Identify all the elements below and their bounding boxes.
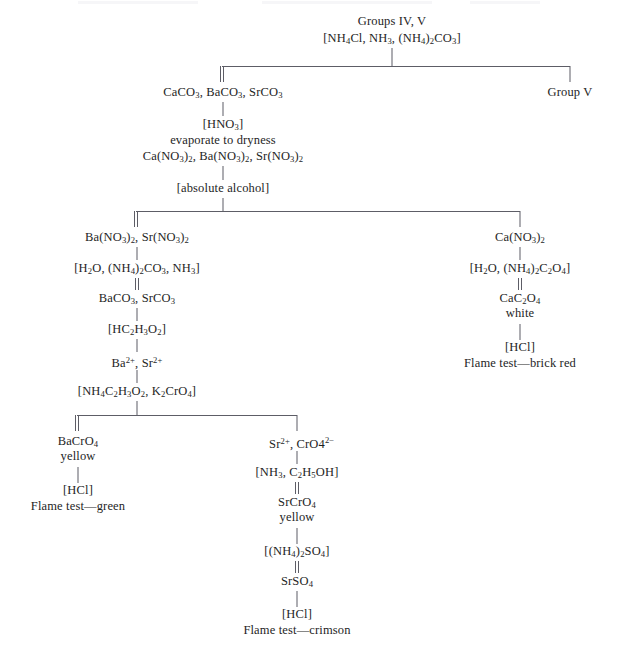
node-reagent-hcl-strontium: [HCl] [282, 607, 312, 621]
node-flame-test-barium: Flame test—green [31, 499, 125, 513]
flowchart-canvas: Groups IV, V [NH4Cl, NH3, (NH4)2CO3] CaC… [0, 0, 617, 664]
connector-to-ammonium-sulfate [297, 528, 298, 544]
connector-to-absolute-alcohol [223, 166, 224, 180]
connector-solution-sr-chromate [297, 415, 298, 431]
connector-precipitate-ba-sr-nitrate [134, 211, 138, 227]
node-reagent-ammonia-ethanol: [NH3, C2H5OH] [256, 465, 339, 482]
node-flame-test-strontium: Flame test—crimson [243, 623, 350, 637]
node-reagent-hcl-barium: [HCl] [63, 483, 93, 497]
connector-precipitate-calcium-oxalate [518, 278, 522, 290]
node-strontium-sulfate: SrSO4 [281, 574, 313, 591]
node-flame-test-calcium: Flame test—brick red [464, 356, 576, 370]
node-ba-sr-carbonate: BaCO3, SrCO3 [99, 291, 175, 308]
connector-to-hcl-barium [78, 467, 79, 483]
node-ca-nitrate: Ca(NO3)2 [495, 230, 545, 247]
scan-artifact [262, 1, 432, 4]
node-ba-sr-nitrate: Ba(NO3)2, Sr(NO3)2 [85, 230, 189, 247]
node-barium-chromate-color: yellow [61, 449, 96, 463]
connector-to-water-carbonate-ammonia [137, 247, 138, 260]
connector-split-1-bar [222, 66, 570, 67]
connector-root-stem [392, 48, 393, 66]
node-reagent-ammonium-sulfate: [(NH4)2SO4] [264, 544, 329, 561]
connector-precipitate-ba-sr-carbonate [135, 278, 139, 290]
node-root-reagent: [NH4Cl, NH3, (NH4)2CO3] [323, 31, 461, 48]
connector-to-hcl-ca [520, 324, 521, 340]
node-reagent-water-ammonium-oxalate: [H2O, (NH4)2C2O4] [470, 261, 571, 278]
node-reagent-water-carbonate-ammonia: [H2O, (NH4)2CO3, NH3] [74, 261, 199, 278]
node-strontium-chromate-color: yellow [280, 510, 315, 524]
connector-precipitate-strontium-sulfate [295, 561, 299, 573]
connector-to-ba-sr-ions [137, 339, 138, 352]
node-reagent-hno3: [HNO3] [203, 117, 244, 134]
connector-split-2-bar [136, 211, 520, 212]
node-mixed-nitrates: Ca(NO3)2, Ba(NO3)2, Sr(NO3)2 [143, 149, 304, 166]
scan-artifact [78, 1, 198, 4]
connector-solution-ca-nitrate [520, 211, 521, 227]
connector-to-split-2 [223, 198, 224, 211]
node-root-label: Groups IV, V [358, 14, 426, 28]
connector-to-split-3 [137, 401, 138, 415]
connector-to-hno3 [223, 102, 224, 116]
connector-precipitate-barium-chromate [75, 415, 79, 431]
node-calcium-oxalate-color: white [506, 306, 535, 320]
connector-split-3-bar [77, 415, 297, 416]
connector-solution-group5 [570, 66, 571, 82]
scan-artifact [470, 1, 540, 4]
node-group5: Group V [548, 85, 593, 99]
node-ba-sr-ions: Ba2+, Sr2+ [111, 353, 162, 370]
node-reagent-ammonium-acetate-chromate: [NH4C2H3O2, K2CrO4] [78, 384, 196, 401]
connector-to-hcl-strontium [297, 591, 298, 607]
connector-precipitate-group4 [220, 66, 224, 82]
connector-to-acetic-acid [137, 308, 138, 321]
node-sr-chromate-ions: Sr2+, CrO42− [269, 434, 325, 451]
connector-to-ammonia-ethanol [297, 451, 298, 464]
node-precipitate-group4: CaCO3, BaCO3, SrCO3 [163, 85, 282, 102]
connector-to-water-oxalate [520, 247, 521, 260]
connector-to-acetate-chromate [137, 370, 138, 383]
node-reagent-hcl-calcium: [HCl] [505, 340, 535, 354]
node-evaporate-to-dryness: evaporate to dryness [170, 133, 276, 147]
node-reagent-absolute-alcohol: [absolute alcohol] [177, 181, 270, 195]
connector-precipitate-strontium-chromate [295, 482, 299, 494]
node-reagent-acetic-acid: [HC2H3O2] [108, 322, 166, 339]
